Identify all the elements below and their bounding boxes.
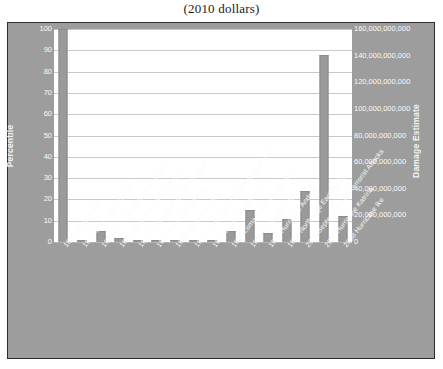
- y-axis-left-tick-label: 80: [44, 68, 52, 76]
- chart-frame: Percentile Damage Estimate 0102030405060…: [7, 22, 435, 359]
- y-axis-left-tick-label: 50: [44, 132, 52, 140]
- y-axis-right-tick-label: 140,000,000,000: [354, 52, 410, 60]
- y-axis-right-tick-label: 60,000,000,000: [354, 158, 406, 166]
- chart-bar[interactable]: [59, 29, 68, 242]
- y-axis-left-tick-label: 0: [48, 238, 52, 246]
- y-axis-right-tick-label: 40,000,000,000: [354, 185, 406, 193]
- y-axis-left-tick-label: 40: [44, 153, 52, 161]
- chart-title: (2010 dollars): [0, 1, 443, 17]
- y-axis-right-tick-label: 160,000,000,000: [354, 25, 410, 33]
- y-axis-left-tick-label: 60: [44, 110, 52, 118]
- y-axis-left-tick-label: 100: [39, 25, 52, 33]
- y-axis-left-title: Percentile: [5, 125, 15, 168]
- y-axis-right-tick-label: 100,000,000,000: [354, 105, 410, 113]
- y-axis-left-tick-label: 90: [44, 46, 52, 54]
- y-axis-left-tick-label: 20: [44, 195, 52, 203]
- y-axis-left-ticks: 0102030405060708090100: [22, 23, 52, 358]
- bar-slot: [54, 29, 73, 242]
- y-axis-right-tick-label: 120,000,000,000: [354, 78, 410, 86]
- y-axis-left-tick-label: 10: [44, 217, 52, 225]
- x-axis-category-labels: 1871 Chicago Fire1900 Galveston Hurrican…: [54, 242, 352, 358]
- y-axis-left-tick-label: 70: [44, 89, 52, 97]
- y-axis-left-tick-label: 30: [44, 174, 52, 182]
- y-axis-right-tick-label: 80,000,000,000: [354, 132, 406, 140]
